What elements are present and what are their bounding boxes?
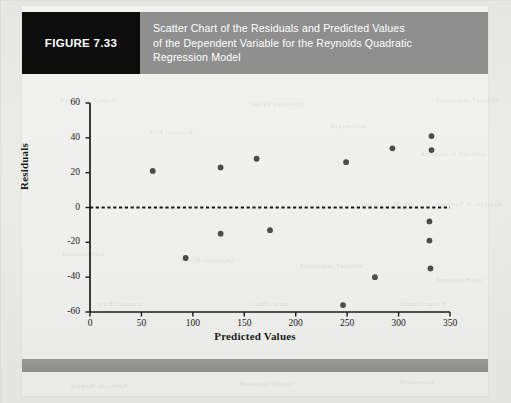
data-point (267, 227, 273, 233)
data-point (218, 165, 224, 171)
y-axis-label: Residuals (18, 143, 30, 190)
data-point (427, 219, 433, 225)
y-tick-label: 40 (54, 132, 80, 142)
y-tick-label: -60 (54, 306, 80, 316)
figure-title-line-1: Scatter Chart of the Residuals and Predi… (153, 21, 488, 36)
x-tick-label: 150 (231, 318, 257, 328)
data-point (429, 147, 435, 153)
figure-footer-bar (22, 359, 488, 372)
x-tick-label: 50 (128, 318, 154, 328)
data-point (427, 238, 433, 244)
chart-plot-area (22, 82, 488, 340)
figure-title-bar: Scatter Chart of the Residuals and Predi… (140, 12, 488, 74)
x-tick-label: 0 (77, 318, 103, 328)
data-point (254, 156, 260, 162)
ghost-text: Regression (400, 378, 435, 386)
scatter-chart: 6040200-20-40-60050100150200250300350 Re… (22, 82, 488, 340)
y-tick-label: 60 (54, 97, 80, 107)
y-tick-label: 20 (54, 167, 80, 177)
x-tick-label: 300 (386, 318, 412, 328)
y-tick-label: 0 (54, 202, 80, 212)
x-tick-label: 200 (283, 318, 309, 328)
data-point (183, 255, 189, 261)
x-tick-label: 100 (180, 318, 206, 328)
figure-header: FIGURE 7.33 Scatter Chart of the Residua… (22, 12, 488, 74)
x-axis-label: Predicted Values (22, 330, 488, 342)
data-point (340, 302, 346, 308)
ghost-text: Reynolds Number (70, 382, 127, 390)
data-point (372, 274, 378, 280)
data-point (390, 145, 396, 151)
y-tick-label: -20 (54, 236, 80, 246)
x-tick-label: 350 (437, 318, 463, 328)
ghost-text: Predicted Values (240, 380, 293, 388)
figure-number-label: FIGURE 7.33 (45, 37, 117, 49)
figure-title-line-2: of the Dependent Variable for the Reynol… (153, 36, 488, 51)
data-point (429, 133, 435, 139)
x-tick-label: 250 (334, 318, 360, 328)
data-point (218, 231, 224, 237)
data-point (428, 266, 434, 272)
figure-title-line-3: Regression Model (153, 50, 488, 65)
y-tick-label: -40 (54, 271, 80, 281)
data-point (150, 168, 156, 174)
figure-number-box: FIGURE 7.33 (22, 12, 140, 74)
data-point (343, 159, 349, 165)
